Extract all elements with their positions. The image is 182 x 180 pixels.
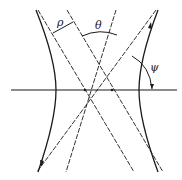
arrow-up-icon: [148, 22, 152, 29]
psi-label: ψ: [150, 61, 159, 74]
theta-label: θ: [95, 19, 102, 32]
theta-arc: [82, 32, 117, 36]
intersection-point: [84, 89, 87, 92]
intersection-point: [111, 89, 114, 92]
left-hyperbola-branch: [36, 10, 56, 172]
hyperbola-diagram: ρ θ ψ: [0, 0, 182, 180]
psi-arrow-icon: [150, 84, 154, 89]
rho-label: ρ: [56, 16, 64, 29]
